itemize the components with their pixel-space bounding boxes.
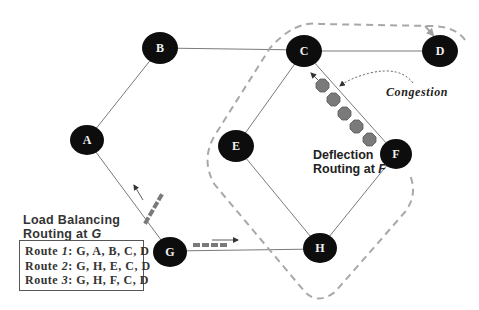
route-1: Route 1: G, A, B, C, D [25,244,143,259]
edge-e-h [236,146,320,248]
edge-c-e [236,51,304,146]
packet-g-up-3 [152,201,159,209]
node-b-label: B [156,41,164,55]
routing-diagram: A B C D E F G [0,0,479,310]
packet-g-right-3 [211,243,218,247]
route-2: Route 2: G, H, E, C, D [25,259,143,274]
node-b[interactable]: B [142,32,178,64]
node-c-label: C [300,44,309,58]
node-h-label: H [315,241,325,255]
node-e-label: E [232,139,240,153]
arrowhead-to-d [425,26,433,35]
node-g-label: G [165,245,174,259]
node-h[interactable]: H [303,233,337,263]
node-d-label: D [436,44,445,58]
edge-c-f [304,51,396,154]
congestion-label: Congestion [386,85,448,99]
edge-b-c [160,48,304,50]
route-3: Route 3: G, H, F, C, D [25,273,143,288]
edge-g-h [170,249,320,251]
load-balancing-title-line1: Load Balancing [23,213,120,227]
load-balancing-title: Load Balancing Routing at G [23,213,120,241]
edge-a-b [87,48,160,140]
node-a-label: A [83,133,92,147]
g-outgoing-packets [143,193,227,247]
packet-g-up-4 [157,193,164,201]
packet-3 [338,107,351,120]
packet-4 [350,120,363,133]
congestion-pointer [340,71,413,86]
congested-packets [316,79,376,146]
node-f-label: F [392,147,399,161]
packet-5 [363,133,376,146]
packet-g-right-2 [202,243,209,247]
node-g[interactable]: G [153,237,187,267]
node-e[interactable]: E [218,130,254,162]
deflection-label-line1: Deflection [313,148,373,162]
deflection-label-line2: Routing at F [313,162,386,176]
packet-1 [316,79,329,92]
g-up-arrow [134,185,143,200]
packet-g-right-1 [193,243,200,247]
load-balancing-title-line2: Routing at G [23,227,120,241]
packet-g-right-4 [220,243,227,247]
packet-g-up-2 [148,209,155,217]
node-c[interactable]: C [286,35,322,67]
node-d[interactable]: D [422,35,458,67]
nodes: A B C D E F G [70,32,458,267]
packet-2 [327,93,340,106]
routes-box: Route 1: G, A, B, C, D Route 2: G, H, E,… [19,240,144,291]
node-a[interactable]: A [70,125,104,155]
deflection-arrow [311,73,318,80]
